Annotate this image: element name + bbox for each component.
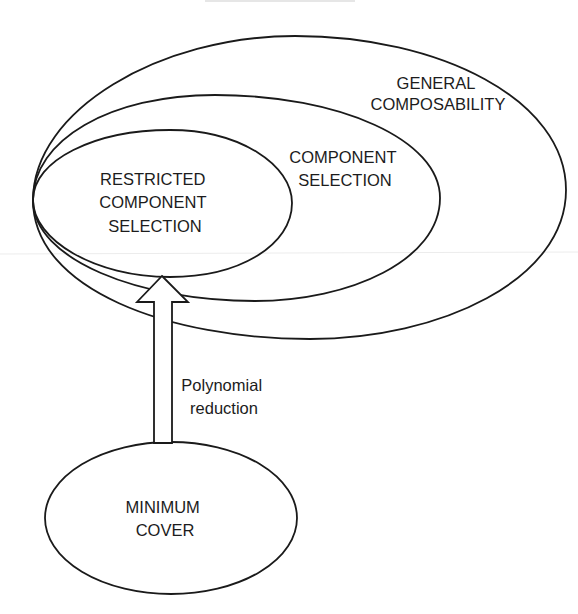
- label-line: SELECTION: [298, 171, 392, 189]
- label-line: Polynomial: [181, 376, 262, 394]
- scan-artifact-line: [0, 252, 578, 254]
- minimum-cover-ellipse: [45, 442, 297, 594]
- diagram-canvas: GENERAL COMPOSABILITY COMPONENT SELECTIO…: [0, 0, 578, 614]
- label-line: COVER: [136, 521, 195, 539]
- cropped-caption-remnant: [205, 0, 355, 2]
- polynomial-reduction-arrow: [137, 276, 188, 443]
- component-selection-ellipse: [33, 95, 440, 301]
- label-line: COMPOSABILITY: [371, 95, 506, 113]
- component-selection-label: COMPONENT SELECTION: [289, 148, 401, 189]
- restricted-component-selection-label: RESTRICTED COMPONENT SELECTION: [99, 170, 211, 235]
- label-line: reduction: [190, 399, 258, 417]
- label-line: COMPONENT: [99, 193, 206, 211]
- label-line: SELECTION: [108, 217, 202, 235]
- label-line: GENERAL: [397, 74, 476, 92]
- minimum-cover-label: MINIMUM COVER: [126, 498, 205, 539]
- label-line: MINIMUM: [126, 498, 200, 516]
- label-line: RESTRICTED: [100, 170, 206, 188]
- polynomial-reduction-label: Polynomial reduction: [181, 376, 266, 417]
- label-line: COMPONENT: [289, 148, 396, 166]
